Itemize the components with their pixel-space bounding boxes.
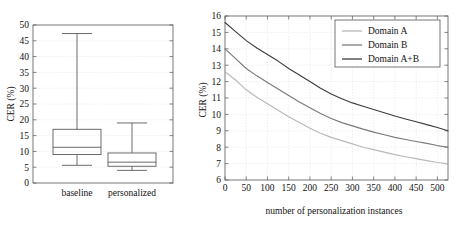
x-tick-label: 0 — [223, 183, 228, 193]
x-tick-label: 50 — [241, 183, 251, 193]
lineplot-y-tick-labels: 678910111213141516 — [212, 11, 222, 185]
box-iqr — [53, 129, 101, 154]
y-tick-label: 7 — [216, 159, 221, 169]
y-tick-label: 35 — [20, 68, 30, 78]
y-tick-label: 25 — [20, 99, 30, 109]
boxplot-y-axis-label: CER (%) — [6, 86, 17, 121]
y-tick-label: 15 — [20, 131, 30, 141]
boxplot-svg: 05101520253035404550 baselinepersonalize… — [0, 0, 196, 225]
series-curve — [225, 72, 448, 164]
y-tick-label: 9 — [216, 126, 221, 136]
legend-label-2: Domain B — [368, 40, 407, 50]
boxplot-y-tick-labels: 05101520253035404550 — [20, 20, 30, 188]
legend-label-3: Domain A+B — [368, 54, 419, 64]
y-tick-label: 0 — [24, 178, 29, 188]
x-tick-label: 500 — [430, 183, 445, 193]
y-tick-label: 40 — [20, 52, 30, 62]
lineplot-panel: 678910111213141516 050100150200250300350… — [196, 0, 459, 225]
boxplot-boxes — [53, 34, 156, 171]
x-tick-label: 300 — [345, 183, 360, 193]
lineplot-y-axis-label: CER (%) — [198, 82, 209, 117]
x-tick-label: 400 — [388, 183, 403, 193]
cer-figure: 05101520253035404550 baselinepersonalize… — [0, 0, 459, 225]
y-tick-label: 12 — [212, 77, 222, 87]
y-tick-label: 14 — [212, 44, 222, 54]
y-tick-label: 10 — [212, 110, 222, 120]
boxplot-panel: 05101520253035404550 baselinepersonalize… — [0, 0, 196, 225]
legend-label-1: Domain A — [368, 26, 407, 36]
y-tick-label: 45 — [20, 36, 30, 46]
boxplot-gridlines — [34, 41, 173, 167]
x-tick-label: 350 — [367, 183, 382, 193]
x-tick-label: 200 — [303, 183, 318, 193]
y-tick-label: 13 — [212, 61, 222, 71]
x-tick-label: 100 — [260, 183, 275, 193]
y-tick-label: 50 — [20, 20, 30, 30]
y-tick-label: 11 — [212, 93, 221, 103]
x-tick-label: 250 — [324, 183, 339, 193]
x-tick-label: 450 — [409, 183, 424, 193]
lineplot-x-tick-labels: 050100150200250300350400450500 — [223, 183, 445, 193]
lineplot-svg: 678910111213141516 050100150200250300350… — [196, 0, 459, 225]
category-label: personalized — [108, 188, 156, 198]
y-tick-label: 20 — [20, 115, 30, 125]
x-tick-label: 150 — [282, 183, 297, 193]
y-tick-label: 15 — [212, 28, 222, 38]
box-iqr — [108, 153, 156, 166]
lineplot-x-axis-label: number of personalization instances — [266, 206, 403, 216]
y-tick-label: 6 — [216, 175, 221, 185]
y-tick-label: 10 — [20, 147, 30, 157]
y-tick-label: 16 — [212, 11, 222, 21]
y-tick-label: 5 — [24, 163, 29, 173]
lineplot-legend: Domain ADomain BDomain A+B — [335, 20, 440, 67]
y-tick-label: 30 — [20, 84, 30, 94]
boxplot-category-labels: baselinepersonalized — [61, 188, 156, 198]
y-tick-label: 8 — [216, 143, 221, 153]
category-label: baseline — [61, 188, 92, 198]
